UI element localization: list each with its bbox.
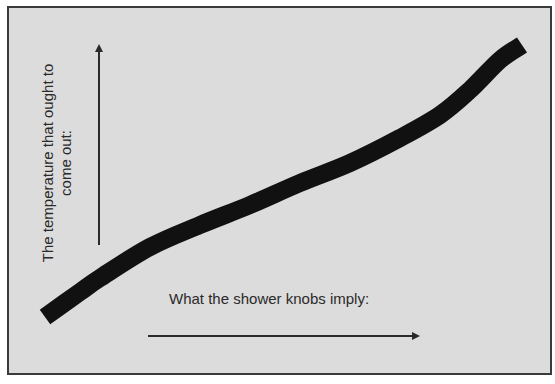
y-axis-label: The temperature that ought to come out: bbox=[39, 38, 75, 288]
temperature-curve bbox=[45, 45, 522, 317]
diagram-canvas bbox=[0, 0, 555, 384]
y-axis-label-line2: come out: bbox=[57, 38, 75, 288]
x-axis-label: What the shower knobs imply: bbox=[169, 290, 409, 307]
y-axis-label-line1: The temperature that ought to bbox=[39, 38, 57, 288]
